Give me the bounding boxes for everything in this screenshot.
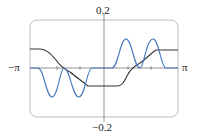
chart — [0, 0, 198, 137]
x-right-label: π — [182, 61, 188, 73]
y-bottom-label: −0.2 — [92, 121, 112, 133]
x-left-label: −π — [8, 61, 20, 73]
y-top-label: 0.2 — [96, 4, 110, 16]
